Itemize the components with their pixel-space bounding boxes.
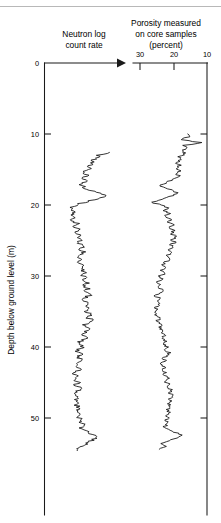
depth-tick-label-10: 10 (31, 130, 39, 139)
porosity-tick-20: 20 (170, 50, 178, 70)
porosity-tick-label-10: 10 (203, 50, 211, 59)
depth-tick-label-30: 30 (31, 272, 39, 281)
depth-tick-10: 10 (31, 130, 51, 139)
porosity-panel-title: Porosity measured on core samples (perce… (131, 18, 201, 50)
porosity-title-line2: on core samples (135, 29, 196, 39)
porosity-tick-30: 30 (136, 50, 144, 70)
depth-tick-20: 20 (31, 201, 51, 210)
depth-tick-50: 50 (31, 414, 51, 423)
core-porosity-trace (152, 134, 202, 449)
log-chart-svg: Neutron log count rate Porosity measured… (0, 0, 221, 523)
depth-tick-label-40: 40 (31, 343, 39, 352)
neutron-log-trace (70, 152, 109, 450)
depth-tick-40: 40 (31, 343, 51, 352)
depth-axis: 0 10 20 30 40 50 Depth below gr (6, 59, 51, 515)
neutron-panel-title: Neutron log count rate (62, 29, 106, 50)
porosity-tick-label-20: 20 (170, 50, 178, 59)
depth-tick-label-20: 20 (31, 201, 39, 210)
neutron-count-rate-axis (45, 59, 127, 68)
porosity-depth-ticks (201, 134, 208, 418)
top-divider-rule (0, 6, 221, 7)
depth-tick-label-50: 50 (31, 414, 39, 423)
depth-tick-30: 30 (31, 272, 51, 281)
porosity-tick-10: 10 (203, 50, 211, 59)
depth-tick-label-0: 0 (35, 59, 39, 68)
neutron-title-line1: Neutron log (62, 29, 106, 39)
porosity-title-line1: Porosity measured (131, 18, 201, 28)
depth-axis-title: Depth below ground level (m) (6, 245, 16, 355)
porosity-title-line3: (percent) (149, 40, 183, 50)
well-log-figure: Neutron log count rate Porosity measured… (0, 0, 221, 523)
depth-tick-0: 0 (35, 59, 39, 68)
neutron-title-line2: count rate (65, 40, 103, 50)
porosity-axis: 30 20 10 (133, 50, 211, 515)
porosity-tick-label-30: 30 (136, 50, 144, 59)
neutron-axis-arrow-icon (117, 59, 126, 68)
